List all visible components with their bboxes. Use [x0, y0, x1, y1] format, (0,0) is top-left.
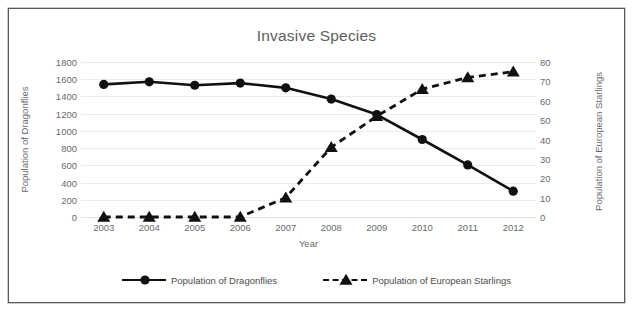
- y-axis-right-tick-label: 60: [540, 95, 551, 106]
- y-axis-left-title: Population of Dragonflies: [17, 62, 31, 217]
- legend-label: Population of European Starlings: [372, 275, 511, 286]
- y-axis-left-tick-label: 400: [61, 177, 77, 188]
- data-point-marker-circle: [281, 83, 290, 92]
- series-line: [104, 82, 514, 191]
- data-point-marker-triangle: [234, 211, 247, 222]
- y-axis-left-tick-label: 1200: [56, 108, 77, 119]
- y-axis-left-tick-label: 1000: [56, 125, 77, 136]
- x-axis-tick-label: 2006: [230, 222, 251, 233]
- y-axis-right-tick-label: 50: [540, 115, 551, 126]
- y-axis-left-tick-label: 0: [72, 212, 77, 223]
- chart-legend: Population of DragonfliesPopulation of E…: [9, 273, 624, 287]
- legend-circle-icon: [137, 273, 153, 287]
- data-point-marker-circle: [236, 78, 245, 87]
- x-axis-tick-label: 2011: [458, 222, 478, 233]
- series-layer: [81, 62, 536, 217]
- x-axis-tick-label: 2004: [139, 222, 160, 233]
- y-axis-left-tick-label: 200: [61, 194, 77, 205]
- data-point-marker-circle: [99, 80, 108, 89]
- legend-key-icon: [323, 273, 367, 287]
- series-dragonflies: [99, 77, 518, 196]
- data-point-marker-circle: [140, 275, 149, 284]
- legend-triangle-icon: [338, 273, 354, 287]
- x-axis-tick-label: 2009: [366, 222, 387, 233]
- data-point-marker-circle: [145, 77, 154, 86]
- y-axis-left-tick-label: 1600: [56, 74, 77, 85]
- data-point-marker-triangle: [340, 274, 353, 285]
- legend-label: Population of Dragonflies: [171, 275, 277, 286]
- y-axis-left-tick-label: 1800: [56, 57, 77, 68]
- data-point-marker-circle: [418, 135, 427, 144]
- y-axis-left-tick-label: 800: [61, 143, 77, 154]
- y-axis-right-title: Population of European Starlings: [591, 54, 605, 229]
- data-point-marker-circle: [327, 94, 336, 103]
- chart-title: Invasive Species: [9, 27, 624, 45]
- x-axis-tick-label: 2007: [275, 222, 296, 233]
- legend-item[interactable]: Population of Dragonflies: [122, 273, 277, 287]
- x-axis-tick-label: 2012: [503, 222, 524, 233]
- x-axis-tick-label: 2010: [412, 222, 433, 233]
- x-axis-title: Year: [81, 238, 536, 249]
- plot-area: [81, 62, 536, 217]
- data-point-marker-circle: [190, 81, 199, 90]
- x-axis-tick-label: 2005: [184, 222, 205, 233]
- y-axis-right-tick-label: 40: [540, 134, 551, 145]
- y-axis-right-tick-label: 10: [540, 192, 551, 203]
- y-axis-right-tick-label: 70: [540, 76, 551, 87]
- x-axis-tick-label: 2003: [93, 222, 114, 233]
- y-axis-right-tick-label: 30: [540, 153, 551, 164]
- data-point-marker-circle: [509, 187, 518, 196]
- x-axis-ticks: 2003200420052006200720082009201020112012: [81, 222, 536, 236]
- x-axis-tick-label: 2008: [321, 222, 342, 233]
- y-axis-right-ticks: 01020304050607080: [540, 62, 566, 217]
- chart-canvas: Invasive Species Population of Dragonfli…: [9, 9, 624, 302]
- y-axis-left-title-text: Population of Dragonflies: [19, 86, 30, 192]
- data-point-marker-triangle: [325, 141, 338, 152]
- y-axis-left-tick-label: 600: [61, 160, 77, 171]
- y-axis-left-tick-label: 1400: [56, 91, 77, 102]
- legend-item[interactable]: Population of European Starlings: [323, 273, 511, 287]
- data-point-marker-circle: [463, 160, 472, 169]
- y-axis-left-ticks: 020040060080010001200140016001800: [41, 62, 77, 217]
- y-axis-right-tick-label: 0: [540, 212, 545, 223]
- legend-key-icon: [122, 273, 166, 287]
- y-axis-right-tick-label: 20: [540, 173, 551, 184]
- chart-frame: Invasive Species Population of Dragonfli…: [8, 8, 625, 303]
- y-axis-right-title-text: Population of European Starlings: [593, 72, 604, 211]
- series-starlings: [97, 65, 520, 221]
- y-axis-right-tick-label: 80: [540, 57, 551, 68]
